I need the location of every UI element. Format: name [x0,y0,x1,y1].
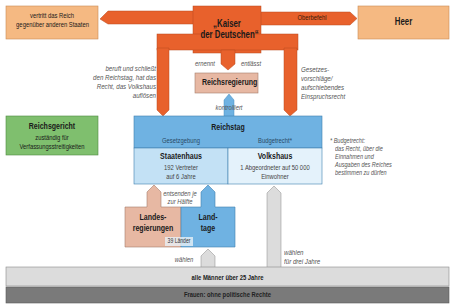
ernennt-label: ernennt [192,60,219,68]
landesregierungen-line-2: regierungen [131,224,175,233]
volkshaus-line-2: Einwohner [238,173,311,181]
foreign-line-2: gegenüber anderen Staaten [16,21,88,29]
waehlen-landtage-arrow [201,249,215,269]
waehlen-right-line-1: wählen [284,249,333,257]
right-note-3: aufschiebendes [301,84,358,92]
kontrolliert-label: kontrolliert [210,104,247,112]
entlaesst-label: entlässt [238,60,265,68]
right-note-2: vorschläge/ [301,75,358,83]
waehlen-right-line-2: für drei Jahre [284,258,333,266]
landtage-line-2: tage [187,224,229,233]
volkshaus-title: Volkshaus [238,152,311,161]
waehlen-left-label: wählen [172,256,197,264]
landesregierungen-line-1: Landes- [131,213,175,222]
reichsregierung-label: Reichsregierung [202,78,251,87]
volkshaus-line-1: 1 Abgeordneter auf 50 000 [238,164,311,172]
staatenhaus-line-1: 192 Vertreter [144,164,217,172]
foreign-line-1: vertritt das Reich [16,12,88,20]
kaiser-line-1: „Kaiser [200,19,253,30]
maenner-label: alle Männer über 25 Jahre [55,274,401,282]
left-note-1: beruft und schließt [92,65,156,73]
reichsgericht-line-2: Verfassungsstreitigkeiten [16,143,88,151]
waehlen-volkshaus-arrow [267,186,281,269]
budgetrecht-label: Budgetrecht* [238,137,311,145]
left-note-3: Recht, das Volkshaus [92,83,156,91]
gesetzgebung-label: Gesetzgebung [144,137,217,145]
landtage-line-1: Land- [187,213,229,222]
entsenden-line-2: zur Hälfte [163,198,197,206]
reichstag-title: Reichstag [155,123,302,132]
reichsgericht-line-1: zuständig für [16,134,88,142]
left-note-2: den Reichstag, hat das [92,74,156,82]
right-note-1: Gesetzes- [301,66,358,74]
footnote-3: Einnahmen und [335,154,403,161]
reichsgericht-title: Reichsgericht [16,122,88,131]
frauen-label: Frauen: ohne politische Rechte [55,291,401,299]
kaiser-line-2: der Deutschen“ [200,30,253,41]
footnote-4: Ausgaben des Reiches [335,162,403,169]
staatenhaus-line-2: auf 6 Jahre [144,173,217,181]
left-note-4: auflösen [92,92,156,100]
footnote-1: * Budgetrecht: [330,138,398,145]
heer-label: Heer [368,17,439,28]
oberbefehl-label: Oberbefehl [289,14,336,22]
footnote-2: das Recht, über die [335,146,403,153]
footnote-5: bestimmen zu dürfen [335,170,403,177]
laender-label: 39 Länder [167,238,192,245]
right-note-4: Einspruchsrecht [301,93,358,101]
staatenhaus-title: Staatenhaus [144,152,217,161]
